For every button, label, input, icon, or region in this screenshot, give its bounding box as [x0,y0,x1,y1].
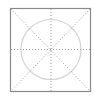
guide-grid-figure [0,0,94,99]
grid-icon [0,0,94,99]
